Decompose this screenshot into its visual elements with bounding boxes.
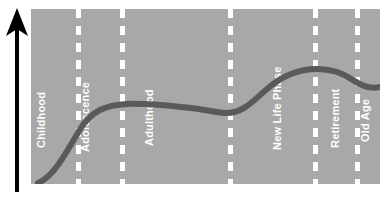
timeline-panel: Childhood Adolescence Adulthood New Life…: [31, 9, 380, 184]
trend-curve-path: [38, 69, 380, 183]
up-arrow-icon: [4, 6, 30, 192]
figure-canvas: Childhood Adolescence Adulthood New Life…: [0, 0, 387, 197]
trend-curve: [31, 9, 380, 184]
